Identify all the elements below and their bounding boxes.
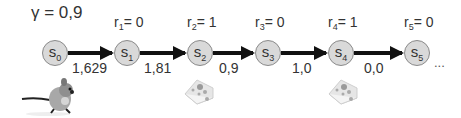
reward-label-1: r1= 0 bbox=[114, 14, 144, 32]
reward-label-5: r5= 0 bbox=[404, 14, 434, 32]
cheese-icon bbox=[327, 76, 361, 106]
transition-arrow-1-2 bbox=[140, 51, 185, 55]
state-node-1: s1 bbox=[114, 40, 140, 66]
value-label-1: 1,81 bbox=[144, 60, 171, 76]
transition-arrow-4-5 bbox=[354, 51, 402, 55]
transition-arrow-0-1 bbox=[68, 51, 112, 55]
value-label-4: 0,0 bbox=[364, 60, 383, 76]
transition-arrow-2-3 bbox=[213, 51, 253, 55]
cheese-icon bbox=[183, 76, 217, 106]
reward-label-2: r2= 1 bbox=[187, 14, 217, 32]
mouse-icon bbox=[18, 72, 78, 116]
transition-arrow-3-4 bbox=[281, 51, 326, 55]
ellipsis: ... bbox=[434, 55, 445, 70]
state-node-3: s3 bbox=[255, 40, 281, 66]
state-node-4: s4 bbox=[328, 40, 354, 66]
state-node-2: s2 bbox=[187, 40, 213, 66]
value-label-3: 1,0 bbox=[292, 60, 311, 76]
gamma-label: γ = 0,9 bbox=[31, 3, 83, 23]
reward-label-4: r4= 1 bbox=[328, 14, 358, 32]
state-node-5: s5 bbox=[404, 40, 430, 66]
reward-label-3: r3= 0 bbox=[255, 14, 285, 32]
value-label-2: 0,9 bbox=[219, 60, 238, 76]
state-node-0: s0 bbox=[42, 40, 68, 66]
